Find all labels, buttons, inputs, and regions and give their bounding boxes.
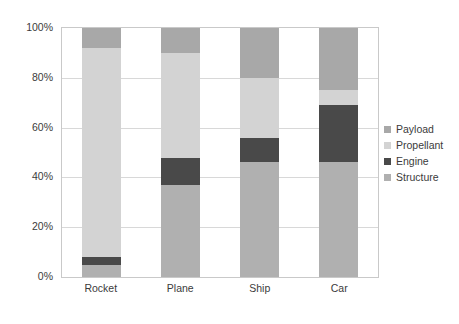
legend-label: Engine (396, 156, 429, 167)
y-axis-tick-label: 20% (0, 220, 53, 232)
x-axis-tick-label: Ship (220, 282, 300, 294)
bar-segment-propellant[interactable] (319, 90, 358, 105)
bar-segment-engine[interactable] (82, 257, 121, 264)
bar-segment-structure[interactable] (82, 265, 121, 277)
bar-segment-engine[interactable] (240, 138, 279, 163)
legend-item-payload[interactable]: Payload (384, 122, 456, 137)
bar-segment-structure[interactable] (161, 185, 200, 277)
bar-segment-payload[interactable] (319, 28, 358, 90)
bar-segment-payload[interactable] (82, 28, 121, 48)
x-axis-tick-label: Car (300, 282, 380, 294)
bar-group-plane[interactable] (141, 28, 220, 277)
legend-swatch-icon (384, 142, 391, 149)
bar-segment-propellant[interactable] (240, 78, 279, 138)
y-axis-tick-label: 40% (0, 170, 53, 182)
bar-segment-payload[interactable] (161, 28, 200, 53)
x-axis: RocketPlaneShipCar (61, 282, 379, 294)
plot-area (61, 27, 379, 278)
bar-group-car[interactable] (299, 28, 378, 277)
y-axis-tick-label: 80% (0, 71, 53, 83)
bar-stack (161, 28, 200, 277)
stacked-bar-chart: 100%80%60%40%20%0% RocketPlaneShipCar Pa… (0, 0, 459, 324)
bar-segment-propellant[interactable] (82, 48, 121, 257)
legend-label: Propellant (396, 140, 443, 151)
y-axis-tick-label: 100% (0, 21, 53, 33)
legend-swatch-icon (384, 126, 391, 133)
legend-swatch-icon (384, 174, 391, 181)
bar-segment-structure[interactable] (319, 162, 358, 277)
y-axis-tick-label: 60% (0, 121, 53, 133)
x-axis-tick-label: Plane (141, 282, 221, 294)
legend-swatch-icon (384, 158, 391, 165)
legend-item-propellant[interactable]: Propellant (384, 138, 456, 153)
x-axis-tick-label: Rocket (61, 282, 141, 294)
y-axis-tick-label: 0% (0, 270, 53, 282)
chart-legend: PayloadPropellantEngineStructure (384, 122, 456, 186)
legend-label: Structure (396, 172, 439, 183)
bars-layer (62, 28, 378, 277)
bar-group-ship[interactable] (220, 28, 299, 277)
bar-stack (319, 28, 358, 277)
legend-item-structure[interactable]: Structure (384, 170, 456, 185)
bar-segment-structure[interactable] (240, 162, 279, 277)
bar-segment-engine[interactable] (319, 105, 358, 162)
legend-item-engine[interactable]: Engine (384, 154, 456, 169)
bar-stack (240, 28, 279, 277)
bar-segment-payload[interactable] (240, 28, 279, 78)
legend-label: Payload (396, 124, 434, 135)
bar-group-rocket[interactable] (62, 28, 141, 277)
bar-segment-engine[interactable] (161, 158, 200, 185)
bar-stack (82, 28, 121, 277)
bar-segment-propellant[interactable] (161, 53, 200, 158)
